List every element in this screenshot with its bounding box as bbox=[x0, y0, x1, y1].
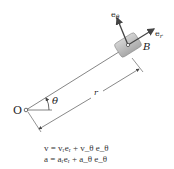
distance-r-label: r bbox=[94, 88, 99, 97]
dimension-line-r bbox=[39, 98, 91, 129]
point-b-label: B bbox=[142, 41, 150, 52]
er-label: er bbox=[155, 29, 164, 39]
acceleration-equation: a = aᵣeᵣ + a_θ e_θ bbox=[44, 154, 107, 164]
etheta-label: eθ bbox=[111, 10, 120, 20]
theta-arc bbox=[46, 98, 49, 110]
origin-marker bbox=[24, 108, 28, 112]
origin-label: O bbox=[13, 104, 22, 117]
point-b-marker bbox=[126, 43, 129, 46]
radial-line bbox=[26, 50, 122, 110]
velocity-equation: v = vᵣeᵣ + v_θ e_θ bbox=[44, 143, 109, 153]
dimension-line-r-upper bbox=[103, 69, 139, 91]
theta-label: θ bbox=[52, 95, 58, 106]
